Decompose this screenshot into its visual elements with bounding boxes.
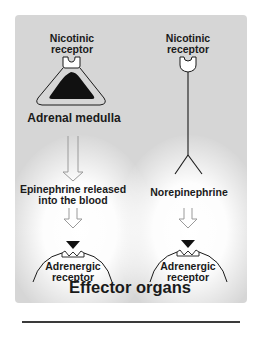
epinephrine-label: Epinephrine released into the blood xyxy=(8,184,138,206)
left-short-down-arrow-icon xyxy=(64,208,82,228)
left-nicotinic-receptor-label: Nicotinic receptor xyxy=(41,33,103,55)
right-nicotinic-receptor-icon xyxy=(180,57,196,72)
left-nicotinic-receptor-icon xyxy=(63,57,80,68)
adrenal-medulla-label: Adrenal medulla xyxy=(18,112,130,125)
adrenal-medulla-icon xyxy=(37,68,106,105)
effector-organs-label: Effector organs xyxy=(60,279,200,296)
norepinephrine-label: Norepinephrine xyxy=(148,187,230,198)
left-long-down-arrow-icon xyxy=(63,136,83,181)
right-ligand-triangle-icon xyxy=(181,240,195,248)
left-ligand-triangle-icon xyxy=(66,241,80,249)
postganglionic-neuron-icon xyxy=(175,72,202,174)
label-line: receptor xyxy=(157,44,219,55)
bottom-divider xyxy=(22,321,240,323)
label-line: into the blood xyxy=(8,195,138,206)
right-nicotinic-receptor-label: Nicotinic receptor xyxy=(157,33,219,55)
label-line: receptor xyxy=(41,44,103,55)
right-short-down-arrow-icon xyxy=(179,208,197,228)
